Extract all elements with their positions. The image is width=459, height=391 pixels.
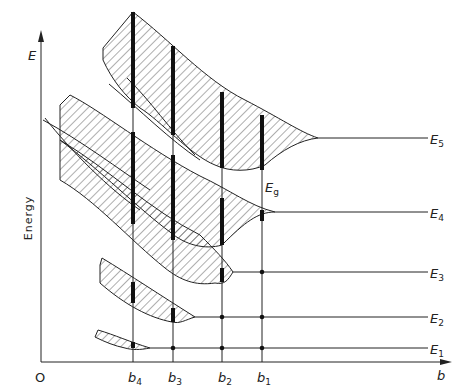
- band-e1: [95, 330, 150, 350]
- y-axis-symbol: E: [28, 49, 36, 62]
- label-e5: E5: [430, 133, 444, 149]
- label-b1: b1: [257, 371, 271, 387]
- label-b2: b2: [218, 371, 232, 387]
- label-eg: Eg: [265, 181, 279, 197]
- label-e1: E1: [430, 343, 444, 359]
- x-axis-symbol: b: [437, 369, 445, 382]
- label-e3: E3: [430, 267, 444, 283]
- origin-label: O: [35, 371, 45, 384]
- label-b3: b3: [168, 371, 182, 387]
- y-axis-label: Energy: [22, 188, 35, 248]
- label-e2: E2: [430, 312, 444, 328]
- label-b4: b4: [128, 371, 142, 387]
- label-e4: E4: [430, 207, 444, 223]
- band-diagram: [0, 0, 459, 391]
